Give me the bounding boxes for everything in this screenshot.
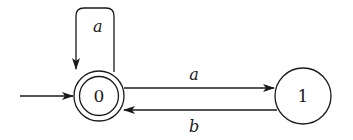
state-1[interactable]: 1 — [275, 68, 331, 124]
automaton-diagram: a 0 1 a b — [0, 0, 353, 140]
edge-1-to-0-label: b — [189, 117, 199, 136]
state-0[interactable]: 0 — [74, 71, 124, 121]
self-loop-label: a — [93, 17, 103, 36]
state-1-label: 1 — [298, 86, 309, 106]
edge-0-to-1-label: a — [189, 65, 199, 84]
state-0-label: 0 — [94, 86, 105, 106]
